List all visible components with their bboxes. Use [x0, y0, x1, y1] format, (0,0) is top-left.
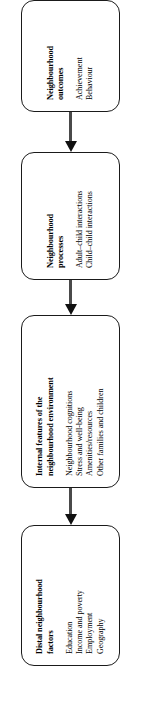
node-item-list: Achievement Behaviour: [75, 12, 95, 100]
arrow-head-icon: [65, 304, 77, 315]
arrow-processes-to-outcomes: [65, 112, 77, 152]
arrow-internal-to-processes: [65, 280, 77, 315]
node-item: Geography: [96, 537, 106, 654]
node-item-list: Education Income and poverty Employment …: [65, 537, 105, 654]
node-item: Achievement: [75, 12, 85, 100]
node-internal-features[interactable]: Internal features of the neighbourhood e…: [21, 315, 120, 488]
arrow-head-icon: [65, 514, 77, 525]
node-distal-factors[interactable]: Distal neighbourhood factors Education I…: [21, 525, 120, 666]
flowchart-figure: Neighbourhood outcomes Achievement Behav…: [0, 0, 141, 709]
node-title: Internal features of the neighbourhood e…: [35, 327, 56, 476]
node-item: Neighbourhood cognitions: [65, 327, 75, 476]
node-item: Amenities/resources: [85, 327, 95, 476]
node-neighbourhood-processes[interactable]: Neighbourhood processes Adult–child inte…: [21, 152, 120, 280]
node-neighbourhood-outcomes[interactable]: Neighbourhood outcomes Achievement Behav…: [21, 0, 120, 112]
node-title: Distal neighbourhood factors: [35, 537, 56, 654]
node-item: Adult–child interactions: [75, 164, 85, 268]
flowchart-row: Neighbourhood outcomes Achievement Behav…: [0, 0, 141, 709]
node-title: Neighbourhood outcomes: [46, 12, 67, 100]
arrow-distal-to-internal: [65, 488, 77, 525]
node-title: Neighbourhood processes: [46, 164, 67, 268]
node-item: Income and poverty: [75, 537, 85, 654]
arrow-head-icon: [65, 141, 77, 152]
node-item: Stress and well-being: [75, 327, 85, 476]
node-item-list: Neighbourhood cognitions Stress and well…: [65, 327, 105, 476]
node-item: Child–child interactions: [85, 164, 95, 268]
node-item: Behaviour: [85, 12, 95, 100]
node-item: Employment: [85, 537, 95, 654]
node-item: Other families and children: [96, 327, 106, 476]
node-item-list: Adult–child interactions Child–child int…: [75, 164, 95, 268]
node-item: Education: [65, 537, 75, 654]
